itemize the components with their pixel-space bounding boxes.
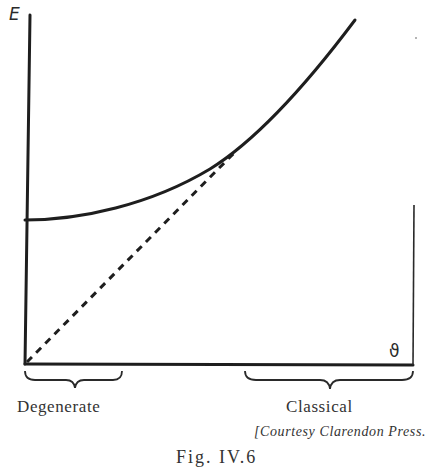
- energy-curve: [25, 20, 355, 220]
- right-border-line: [413, 205, 414, 365]
- y-axis-label: E: [9, 4, 20, 24]
- tangent-dashed-line: [27, 150, 237, 362]
- courtesy-credit: [Courtesy Clarendon Press.: [254, 424, 426, 440]
- figure-caption: Fig. IV.6: [176, 447, 257, 468]
- stray-mark: [415, 37, 417, 39]
- degenerate-brace: [25, 371, 122, 388]
- x-axis: [25, 364, 413, 365]
- classical-region-label: Classical: [286, 397, 353, 417]
- classical-brace: [245, 371, 413, 389]
- x-axis-label: ϑ: [389, 341, 400, 361]
- degenerate-region-label: Degenerate: [17, 397, 100, 417]
- y-axis: [25, 15, 30, 364]
